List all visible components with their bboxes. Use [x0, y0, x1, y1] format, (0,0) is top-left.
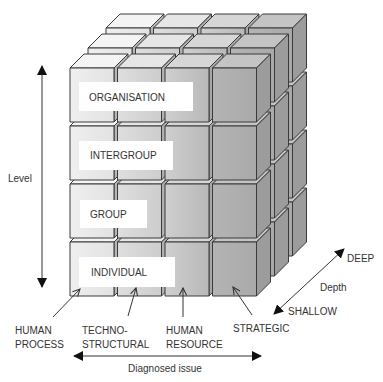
- level-label-text: INDIVIDUAL: [91, 267, 148, 278]
- level-label-text: GROUP: [90, 209, 127, 220]
- level-label-individual: INDIVIDUAL: [79, 257, 175, 287]
- level-label-group: GROUP: [80, 200, 147, 228]
- level-axis-label: Level: [8, 173, 32, 184]
- issue-label-line1: HUMAN: [15, 325, 52, 336]
- issue-label-human-resource: HUMAN RESOURCE: [166, 325, 223, 350]
- issue-label-strategic: STRATEGIC: [233, 323, 289, 334]
- level-label-text: INTERGROUP: [90, 150, 157, 161]
- level-label-intergroup: INTERGROUP: [79, 141, 173, 170]
- depth-shallow-label: SHALLOW: [288, 306, 337, 317]
- depth-axis-label: Depth: [320, 282, 347, 293]
- issue-label-line2: STRUCTURAL: [82, 339, 150, 350]
- cube: [213, 54, 271, 122]
- depth-deep-label: DEEP: [347, 253, 375, 264]
- level-label-text: ORGANISATION: [89, 92, 165, 103]
- issue-label-line1: HUMAN: [166, 325, 203, 336]
- cube-front-face: [213, 184, 257, 238]
- cube-front-face: [165, 184, 209, 238]
- issue-label-line1: STRATEGIC: [233, 323, 289, 334]
- issue-label-techno-structural: TECHNO- STRUCTURAL: [82, 325, 150, 350]
- level-label-organisation: ORGANISATION: [79, 82, 193, 111]
- issue-label-human-process: HUMAN PROCESS: [15, 325, 64, 350]
- issue-label-line2: RESOURCE: [166, 339, 223, 350]
- cube-front-face: [213, 242, 257, 296]
- human-process-pointer-arrow-icon: [53, 289, 80, 317]
- cube-front-face: [213, 126, 257, 180]
- cube-front-face: [213, 68, 257, 122]
- issue-label-line1: TECHNO-: [82, 325, 128, 336]
- consulting-intervention-cube-diagram: ORGANISATION INTERGROUP GROUP INDIVIDUAL…: [0, 0, 383, 382]
- diagnosed-issue-axis-label: Diagnosed issue: [128, 363, 202, 374]
- issue-label-line2: PROCESS: [15, 339, 64, 350]
